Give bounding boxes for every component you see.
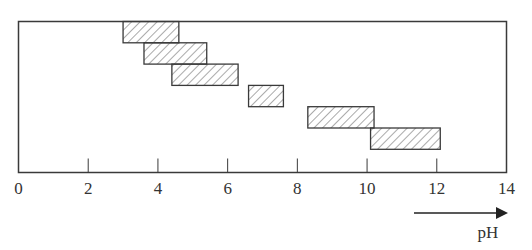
x-axis-tick-labels: 02468101214: [14, 179, 515, 198]
range-bars: [123, 22, 440, 150]
ph-range-bar: [371, 128, 441, 149]
x-axis-title: pH: [478, 223, 499, 242]
x-axis-ticks: [88, 159, 437, 173]
ph-range-bar: [123, 22, 179, 43]
arrowhead-icon: [496, 207, 508, 219]
x-tick-label: 8: [293, 179, 302, 198]
ph-direction-arrow: [414, 207, 508, 219]
x-tick-label: 4: [154, 179, 163, 198]
ph-range-bar: [249, 85, 284, 106]
ph-range-bar: [144, 43, 207, 64]
ph-range-bar: [172, 64, 238, 85]
x-tick-label: 10: [359, 179, 376, 198]
x-tick-label: 2: [84, 179, 93, 198]
x-tick-label: 0: [14, 179, 23, 198]
x-tick-label: 6: [223, 179, 232, 198]
x-tick-label: 14: [498, 179, 516, 198]
x-tick-label: 12: [428, 179, 445, 198]
chart: 02468101214 pH: [0, 0, 532, 250]
ph-range-bar: [308, 107, 374, 128]
